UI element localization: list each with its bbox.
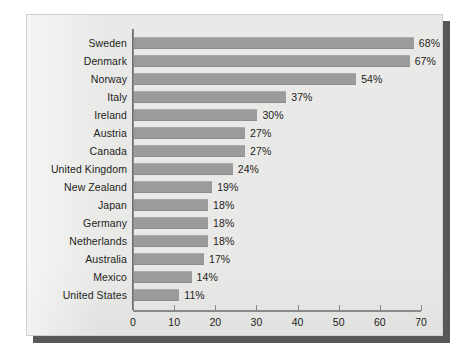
bar-value-label: 24% xyxy=(238,162,259,176)
x-axis-tick-label: 40 xyxy=(292,316,304,328)
bar-track: 11% xyxy=(134,289,438,301)
bar-track: 67% xyxy=(134,55,438,67)
bar-value-label: 30% xyxy=(262,108,283,122)
bar-track: 24% xyxy=(134,163,438,175)
bar xyxy=(134,109,257,121)
category-label: Austria xyxy=(27,127,127,139)
x-axis-tick-label: 30 xyxy=(251,316,263,328)
x-axis-tick-label: 20 xyxy=(209,316,221,328)
bar-value-label: 18% xyxy=(213,198,234,212)
bar-row: Australia17% xyxy=(27,250,442,268)
bar-value-label: 68% xyxy=(419,36,440,50)
bar-track: 17% xyxy=(134,253,438,265)
bar-row: Italy37% xyxy=(27,88,442,106)
category-label: New Zealand xyxy=(27,181,127,193)
bar-track: 18% xyxy=(134,199,438,211)
category-label: Italy xyxy=(27,91,127,103)
x-axis-tick xyxy=(174,305,175,311)
bar-track: 19% xyxy=(134,181,438,193)
x-axis-tick-label: 60 xyxy=(374,316,386,328)
chart-panel: Sweden68%Denmark67%Norway54%Italy37%Irel… xyxy=(26,14,443,336)
bar xyxy=(134,127,245,139)
bar xyxy=(134,289,179,301)
bar xyxy=(134,145,245,157)
bar xyxy=(134,235,208,247)
chart-figure: Sweden68%Denmark67%Norway54%Italy37%Irel… xyxy=(0,0,463,361)
x-axis-tick xyxy=(215,305,216,311)
bar-row: Austria27% xyxy=(27,124,442,142)
bar xyxy=(134,217,208,229)
bar-value-label: 37% xyxy=(291,90,312,104)
bar-rows: Sweden68%Denmark67%Norway54%Italy37%Irel… xyxy=(27,34,442,304)
x-axis-tick xyxy=(421,305,422,311)
bar-row: Japan18% xyxy=(27,196,442,214)
bar-value-label: 67% xyxy=(415,54,436,68)
bar-value-label: 18% xyxy=(213,216,234,230)
category-label: Sweden xyxy=(27,37,127,49)
category-label: Mexico xyxy=(27,271,127,283)
category-label: Ireland xyxy=(27,109,127,121)
x-axis-tick-label: 10 xyxy=(168,316,180,328)
bar-track: 27% xyxy=(134,127,438,139)
bar-row: United Kingdom24% xyxy=(27,160,442,178)
bar-value-label: 54% xyxy=(361,72,382,86)
bar-track: 18% xyxy=(134,235,438,247)
bar xyxy=(134,181,212,193)
bar-row: Germany18% xyxy=(27,214,442,232)
bar xyxy=(134,37,414,49)
x-axis-tick xyxy=(298,305,299,311)
x-axis-tick-label: 50 xyxy=(333,316,345,328)
x-axis-tick xyxy=(133,305,134,311)
category-label: United States xyxy=(27,289,127,301)
bar-row: Norway54% xyxy=(27,70,442,88)
category-label: Japan xyxy=(27,199,127,211)
category-label: Norway xyxy=(27,73,127,85)
bar-row: Sweden68% xyxy=(27,34,442,52)
bar-row: United States11% xyxy=(27,286,442,304)
bar xyxy=(134,55,410,67)
category-label: Germany xyxy=(27,217,127,229)
bar-value-label: 18% xyxy=(213,234,234,248)
bar-value-label: 27% xyxy=(250,144,271,158)
bar-value-label: 11% xyxy=(184,288,205,302)
x-axis-tick-label: 70 xyxy=(415,316,427,328)
category-label: Australia xyxy=(27,253,127,265)
bar-value-label: 19% xyxy=(217,180,238,194)
bar-row: Mexico14% xyxy=(27,268,442,286)
category-label: Canada xyxy=(27,145,127,157)
bar-track: 68% xyxy=(134,37,438,49)
bar xyxy=(134,271,192,283)
plot-area: Sweden68%Denmark67%Norway54%Italy37%Irel… xyxy=(27,15,442,335)
bar xyxy=(134,163,233,175)
bar-row: Denmark67% xyxy=(27,52,442,70)
bar-track: 30% xyxy=(134,109,438,121)
bar-track: 27% xyxy=(134,145,438,157)
x-axis-tick xyxy=(339,305,340,311)
x-axis-tick xyxy=(380,305,381,311)
bar xyxy=(134,199,208,211)
bar-value-label: 14% xyxy=(197,270,218,284)
bar-track: 54% xyxy=(134,73,438,85)
x-axis-tick xyxy=(256,305,257,311)
bar-track: 14% xyxy=(134,271,438,283)
bar xyxy=(134,73,356,85)
x-axis: 010203040506070 xyxy=(133,310,421,312)
bar-value-label: 17% xyxy=(209,252,230,266)
bar-row: Canada27% xyxy=(27,142,442,160)
bar-value-label: 27% xyxy=(250,126,271,140)
bar-track: 18% xyxy=(134,217,438,229)
category-label: Netherlands xyxy=(27,235,127,247)
category-label: United Kingdom xyxy=(27,163,127,175)
bar xyxy=(134,253,204,265)
category-label: Denmark xyxy=(27,55,127,67)
bar-row: Netherlands18% xyxy=(27,232,442,250)
bar xyxy=(134,91,286,103)
bar-row: New Zealand19% xyxy=(27,178,442,196)
bar-row: Ireland30% xyxy=(27,106,442,124)
bar-track: 37% xyxy=(134,91,438,103)
x-axis-tick-label: 0 xyxy=(130,316,136,328)
